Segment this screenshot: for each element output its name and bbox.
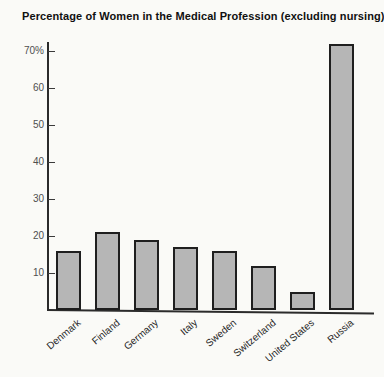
x-category-label-finland: Finland xyxy=(89,317,121,347)
y-tick-mark-40 xyxy=(48,162,55,164)
y-tick-mark-50 xyxy=(48,125,55,127)
y-axis-line xyxy=(47,42,49,311)
chart-title: Percentage of Women in the Medical Profe… xyxy=(22,10,378,22)
y-tick-label-40: 40 xyxy=(12,156,44,168)
y-tick-label-70: 70% xyxy=(12,45,44,57)
y-tick-label-50: 50 xyxy=(12,119,44,131)
bar-united-states xyxy=(290,292,315,311)
y-tick-label-60: 60 xyxy=(12,82,44,94)
y-tick-mark-10 xyxy=(48,273,55,275)
y-tick-label-30: 30 xyxy=(12,193,44,205)
bar-russia xyxy=(329,44,354,310)
x-category-label-italy: Italy xyxy=(178,317,199,337)
bar-finland xyxy=(95,232,120,310)
y-tick-mark-20 xyxy=(48,236,55,238)
x-category-label-germany: Germany xyxy=(122,317,161,352)
x-category-label-sweden: Sweden xyxy=(204,317,239,349)
y-tick-mark-30 xyxy=(48,199,55,201)
bar-chart-figure: Percentage of Women in the Medical Profe… xyxy=(0,0,384,377)
x-category-label-denmark: Denmark xyxy=(44,317,82,352)
bar-sweden xyxy=(212,251,237,310)
y-tick-label-20: 20 xyxy=(12,230,44,242)
bar-switzerland xyxy=(251,266,276,310)
bar-germany xyxy=(134,240,159,310)
y-tick-mark-60 xyxy=(48,88,55,90)
bar-italy xyxy=(173,247,198,310)
bar-denmark xyxy=(56,251,81,310)
y-tick-mark-70 xyxy=(48,51,55,53)
x-category-label-russia: Russia xyxy=(325,317,355,345)
y-tick-label-10: 10 xyxy=(12,267,44,279)
